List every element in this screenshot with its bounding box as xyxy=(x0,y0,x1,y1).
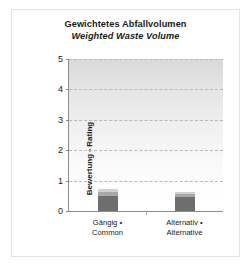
y-tick-mark xyxy=(66,211,69,212)
gridline xyxy=(69,59,223,60)
y-tick-mark xyxy=(66,89,69,90)
gridline xyxy=(69,150,223,151)
plot-area: Bewertung • Rating 012345 Gängig •Common… xyxy=(68,59,223,212)
bar-segment-segment-1 xyxy=(98,196,118,211)
y-tick-label: 5 xyxy=(58,55,63,64)
x-axis-label-2: Alternativ •Alternative xyxy=(166,218,202,238)
x-tick-separator xyxy=(146,211,147,215)
chart-title-block: Gewichtetes Abfallvolumen Weighted Waste… xyxy=(11,18,240,42)
y-axis-title: Bewertung • Rating xyxy=(85,119,94,199)
y-tick-mark xyxy=(66,120,69,121)
gridline xyxy=(69,120,223,121)
bar-segment-segment-1 xyxy=(175,197,195,211)
bar-2 xyxy=(175,192,195,211)
y-tick-mark xyxy=(66,59,69,60)
y-tick-mark xyxy=(66,150,69,151)
x-axis-label-line-2: Alternative xyxy=(166,228,202,238)
gridline xyxy=(69,181,223,182)
chart-title-english: Weighted Waste Volume xyxy=(11,30,240,42)
gridline xyxy=(69,89,223,90)
y-tick-label: 2 xyxy=(58,146,63,155)
y-tick-label: 3 xyxy=(58,115,63,124)
chart-figure: Gewichtetes Abfallvolumen Weighted Waste… xyxy=(0,0,251,268)
y-tick-label: 4 xyxy=(58,85,63,94)
x-axis-label-line-1: Gängig • xyxy=(92,218,123,228)
y-tick-label: 0 xyxy=(58,207,63,216)
x-axis-label-1: Gängig •Common xyxy=(92,218,123,238)
bar-1 xyxy=(98,189,118,211)
y-tick-label: 1 xyxy=(58,176,63,185)
x-axis-label-line-2: Common xyxy=(92,228,123,238)
y-tick-mark xyxy=(66,181,69,182)
x-axis-label-line-1: Alternativ • xyxy=(166,218,202,228)
chart-title-german: Gewichtetes Abfallvolumen xyxy=(11,18,240,30)
